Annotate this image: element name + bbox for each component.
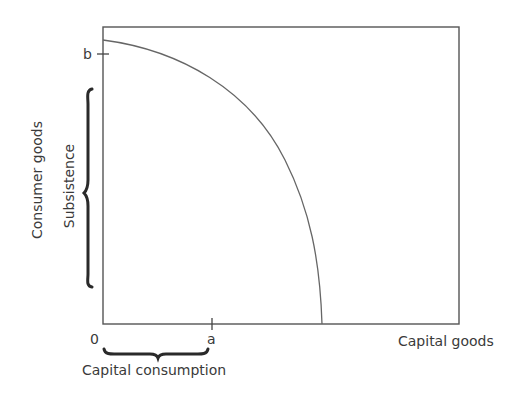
origin-label: 0 bbox=[90, 331, 99, 347]
capital-consumption-brace bbox=[104, 349, 208, 358]
plot-frame bbox=[103, 27, 459, 324]
ppf-curve bbox=[103, 40, 322, 324]
capital-consumption-label: Capital consumption bbox=[82, 362, 226, 378]
x-tick-label-a: a bbox=[207, 331, 216, 347]
y-tick-label-b: b bbox=[83, 46, 92, 62]
x-axis-label: Capital goods bbox=[398, 333, 494, 349]
subsistence-brace bbox=[84, 89, 92, 287]
subsistence-label: Subsistence bbox=[61, 144, 77, 228]
ppf-diagram: b a 0 Capital goods Consumer goods Subsi… bbox=[0, 0, 523, 400]
y-axis-label: Consumer goods bbox=[29, 121, 45, 239]
